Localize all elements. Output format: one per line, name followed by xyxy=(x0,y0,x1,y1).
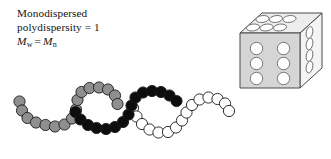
cube-front-pore xyxy=(250,42,262,54)
porous-cube-illustration xyxy=(240,13,322,88)
cube-front-pore xyxy=(277,72,289,84)
porous-cube-layer xyxy=(0,0,331,159)
cube-front-pore xyxy=(250,57,262,69)
porous-cube-svg xyxy=(0,0,331,159)
figure-root: Monodispersed polydispersity = 1 Mw=Mn xyxy=(0,0,331,159)
cube-front-pore xyxy=(277,42,289,54)
cube-front-pore xyxy=(250,72,262,84)
cube-front-pore xyxy=(277,57,289,69)
cube-front-face xyxy=(240,33,300,88)
